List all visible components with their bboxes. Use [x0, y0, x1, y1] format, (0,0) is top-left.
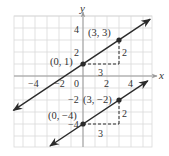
- point-label: (3, 3): [88, 27, 111, 39]
- x-tick-label: 2: [104, 78, 109, 89]
- run-label: 3: [98, 128, 103, 139]
- y-axis-label: y: [79, 2, 85, 14]
- data-point: [116, 37, 121, 42]
- y-tick-label: 4: [74, 24, 79, 35]
- x-tick-label: −4: [28, 78, 39, 89]
- y-tick-label: 2: [74, 47, 79, 58]
- point-label: (0, 1): [50, 56, 73, 68]
- y-tick-label: −2: [68, 94, 79, 105]
- x-tick-label: 0: [74, 78, 79, 89]
- x-axis-label: x: [158, 69, 164, 81]
- coordinate-plane: y x −4 −2 0 2 4 4 2 −2 −4 (3, 3) (0, 1) …: [0, 0, 169, 156]
- point-label: (3, −2): [83, 94, 112, 106]
- rise-label: 2: [122, 47, 127, 58]
- data-point: [80, 61, 85, 66]
- x-tick-label: 4: [128, 78, 133, 89]
- run-label: 3: [98, 67, 103, 78]
- point-label: (0, −4): [48, 110, 77, 122]
- data-point: [116, 97, 121, 102]
- rise-label: 2: [122, 108, 127, 119]
- data-point: [80, 121, 85, 126]
- x-tick-label: −2: [54, 78, 65, 89]
